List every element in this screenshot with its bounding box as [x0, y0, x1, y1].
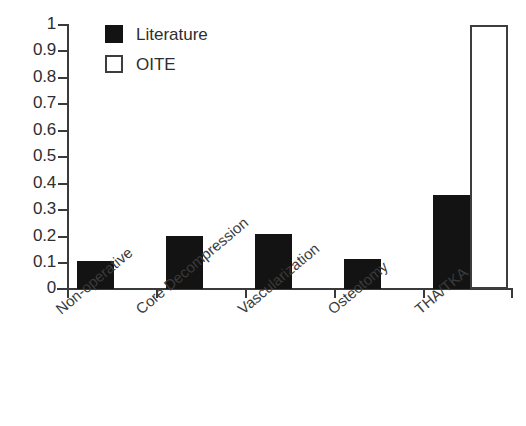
- filled-square-swatch-icon: [105, 25, 123, 43]
- y-axis-tick-label: 0.9: [20, 41, 56, 58]
- outlined-square-swatch-icon: [105, 55, 123, 73]
- y-axis-tick-label: 0.7: [20, 94, 56, 111]
- legend-label-literature: Literature: [136, 26, 208, 43]
- bar-oite-tha-tka: [470, 25, 508, 289]
- legend-item-oite: OITE: [105, 49, 208, 79]
- legend-item-literature: Literature: [105, 19, 208, 49]
- y-axis-tick-label: 1: [20, 15, 56, 32]
- chart-legend: Literature OITE: [105, 19, 208, 79]
- y-axis-tick-label: 0.6: [20, 121, 56, 138]
- y-axis-tick-label: 0.4: [20, 174, 56, 191]
- bar-chart: 1 0.9 0.8 0.7 0.6 0.5 0.4 0.3 0.2 0.1 0 …: [0, 0, 526, 426]
- y-axis-tick-label: 0.3: [20, 200, 56, 217]
- y-axis-tick-label: 0.1: [20, 253, 56, 270]
- x-tick-mark: [511, 289, 513, 298]
- y-axis-tick-label: 0: [20, 279, 56, 296]
- y-axis-tick-label: 0.2: [20, 227, 56, 244]
- y-axis-tick-label: 0.5: [20, 147, 56, 164]
- y-axis-tick-label: 0.8: [20, 68, 56, 85]
- legend-label-oite: OITE: [136, 56, 176, 73]
